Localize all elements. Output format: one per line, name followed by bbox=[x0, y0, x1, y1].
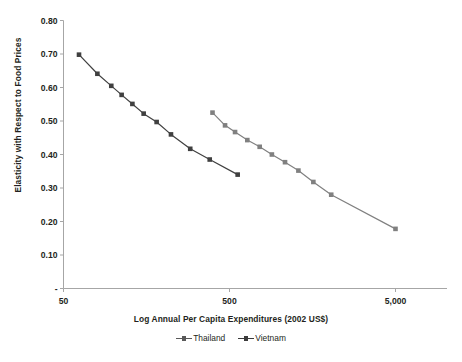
data-point-thailand bbox=[311, 180, 316, 185]
data-point-vietnam bbox=[130, 102, 135, 107]
data-point-vietnam bbox=[169, 132, 174, 137]
legend-label: Thailand bbox=[193, 333, 225, 343]
data-point-thailand bbox=[270, 152, 275, 157]
legend-marker-icon bbox=[238, 338, 254, 339]
data-point-vietnam bbox=[207, 157, 212, 162]
series-line-thailand bbox=[213, 113, 396, 229]
data-point-thailand bbox=[223, 123, 228, 128]
figure-caption bbox=[6, 352, 306, 360]
data-point-thailand bbox=[210, 110, 215, 115]
legend-label: Vietnam bbox=[255, 333, 286, 343]
data-point-thailand bbox=[257, 145, 262, 150]
data-point-thailand bbox=[296, 168, 301, 173]
plot-area bbox=[0, 0, 462, 362]
x-axis-title: Log Annual Per Capita Expenditures (2002… bbox=[0, 314, 462, 324]
chart-legend: ThailandVietnam bbox=[0, 333, 462, 343]
data-point-vietnam bbox=[119, 93, 124, 98]
legend-item-vietnam[interactable]: Vietnam bbox=[238, 333, 286, 343]
data-point-thailand bbox=[233, 130, 238, 135]
legend-marker-icon bbox=[176, 338, 192, 339]
data-point-thailand bbox=[329, 192, 334, 197]
data-point-vietnam bbox=[235, 172, 240, 177]
data-point-thailand bbox=[245, 138, 250, 143]
data-point-thailand bbox=[393, 227, 398, 232]
data-point-vietnam bbox=[188, 147, 193, 152]
data-point-vietnam bbox=[154, 120, 159, 125]
data-point-vietnam bbox=[109, 84, 114, 89]
data-point-vietnam bbox=[141, 111, 146, 116]
data-point-vietnam bbox=[77, 52, 82, 57]
data-point-vietnam bbox=[95, 71, 100, 76]
data-point-thailand bbox=[283, 160, 288, 165]
legend-item-thailand[interactable]: Thailand bbox=[176, 333, 225, 343]
chart-figure: Elasticity with Respect to Food Prices -… bbox=[0, 0, 462, 362]
